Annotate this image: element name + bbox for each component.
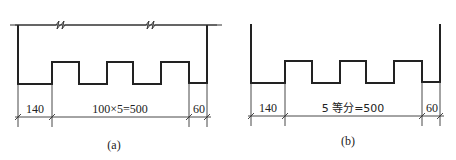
figure-a: 140 100×5=500 60 (a) [10, 21, 217, 152]
figure-b-dims: 140 5 等分=500 60 (b) [248, 82, 444, 148]
diagram-canvas: 140 100×5=500 60 (a) 140 5 等分=500 60 (b) [0, 0, 456, 160]
dim-middle-label: 100×5=500 [92, 102, 148, 116]
figure-caption: (a) [107, 138, 120, 152]
dim-left-label: 140 [259, 101, 277, 115]
top-break-line [15, 21, 222, 29]
figure-caption: (b) [341, 134, 355, 148]
notched-profile [18, 25, 207, 84]
dim-middle-label: 5 等分=500 [322, 101, 385, 115]
dim-right-label: 60 [426, 101, 438, 115]
notched-profile [251, 24, 440, 83]
dim-right-label: 60 [193, 102, 205, 116]
dim-left-label: 140 [26, 102, 44, 116]
